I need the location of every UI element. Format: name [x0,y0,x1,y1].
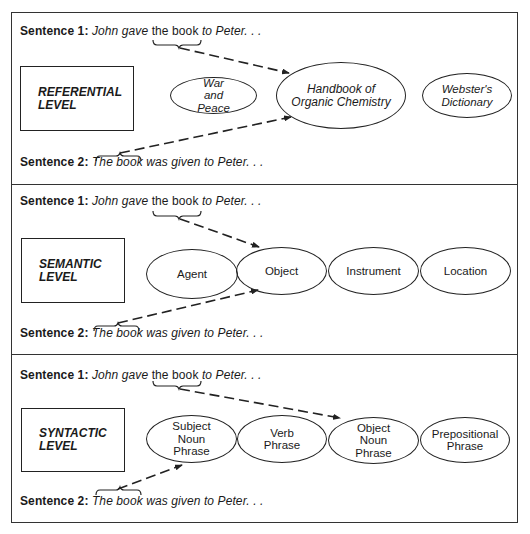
node-text: and [204,89,223,101]
level-label: REFERENTIAL [38,85,122,99]
sentence-text: John gave [92,194,148,208]
colon: : [84,155,88,169]
sentence-text: was given to Peter. . . [146,494,263,508]
sentence-text: to Peter. . . [202,24,262,38]
node-text: Phrase [355,447,391,459]
colon: : [84,326,88,340]
node-agent: Agent [146,249,238,299]
node-text: Phrase [447,440,483,452]
node-text: Dictionary [441,96,492,108]
colon: : [84,24,88,38]
node-subject-noun-phrase: SubjectNounPhrase [146,415,237,463]
highlighted-phrase: the book [152,24,199,38]
node-instrument: Instrument [328,247,419,295]
node-text: Object [265,265,298,278]
sentence-2: Sentence 2: The book was given to Peter.… [20,326,263,340]
colon: : [84,194,88,208]
sentence-2: Sentence 2: The book was given to Peter.… [20,494,263,508]
node-text: Object [357,422,390,434]
colon: : [84,368,88,382]
level-box-semantic: SEMANTICLEVEL [21,238,125,303]
level-label: SYNTACTIC [39,426,107,440]
level-label: LEVEL [38,98,77,112]
highlighted-phrase: the book [152,368,199,382]
sentence-label: Sentence 1 [20,194,84,208]
sentence-text: John gave [92,368,148,382]
panel-divider [11,184,518,185]
node-location: Location [420,247,511,295]
highlighted-phrase: the book [152,194,199,208]
sentence-label: Sentence 2 [20,494,84,508]
node-text: Peace [197,102,230,114]
colon: : [84,494,88,508]
sentence-text: was given to Peter. . . [146,155,263,169]
node-handbook-organic-chemistry: Handbook ofOrganic Chemistry [276,62,406,129]
sentence-label: Sentence 1 [20,368,84,382]
node-text: Organic Chemistry [291,95,390,109]
node-text: Webster's [442,83,493,95]
sentence-label: Sentence 2 [20,155,84,169]
node-text: Location [444,265,487,278]
highlighted-phrase: The book [92,494,143,508]
panel-divider [11,354,518,355]
node-war-and-peace: WarandPeace [170,77,257,114]
level-label: LEVEL [39,439,78,453]
sentence-text: to Peter. . . [202,194,262,208]
node-prepositional-phrase: PrepositionalPhrase [420,417,510,463]
sentence-1: Sentence 1: John gave the book to Peter.… [20,24,261,38]
sentence-label: Sentence 2 [20,326,84,340]
sentence-2: Sentence 2: The book was given to Peter.… [20,155,263,169]
sentence-1: Sentence 1: John gave the book to Peter.… [20,194,261,208]
node-text: Prepositional [432,428,498,440]
level-box-referential: REFERENTIALLEVEL [20,66,134,131]
node-text: Agent [177,268,207,281]
sentence-text: was given to Peter. . . [146,326,263,340]
node-text: Phrase [173,445,209,457]
level-box-syntactic: SYNTACTICLEVEL [21,408,125,472]
sentence-text: to Peter. . . [202,368,262,382]
highlighted-phrase: The book [92,326,143,340]
sentence-label: Sentence 1 [20,24,84,38]
node-verb-phrase: VerbPhrase [237,415,327,463]
node-text: Noun [360,434,388,446]
highlighted-phrase: The book [92,155,143,169]
node-text: Instrument [346,265,400,278]
node-text: Verb [270,427,294,439]
sentence-1: Sentence 1: John gave the book to Peter.… [20,368,261,382]
node-text: Phrase [264,439,300,451]
node-text: War [203,77,224,89]
node-object: Object [236,247,327,295]
sentence-text: John gave [92,24,148,38]
node-object-noun-phrase: ObjectNounPhrase [328,417,419,464]
level-label: LEVEL [39,270,78,284]
level-label: SEMANTIC [39,257,102,271]
node-text: Noun [178,433,206,445]
node-websters-dictionary: Webster'sDictionary [422,73,512,118]
node-text: Subject [172,420,210,432]
